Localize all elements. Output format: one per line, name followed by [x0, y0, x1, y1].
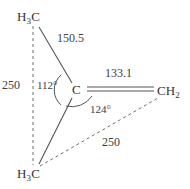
atom-label-methyl-top: H3C	[17, 9, 40, 26]
distance-label-methyl-methylene: 250	[102, 135, 120, 150]
atom-label-methyl-top-suffix: C	[31, 9, 40, 24]
atom-label-methyl-bottom-suffix: C	[31, 166, 40, 181]
atom-label-methylene-right: CH2	[157, 83, 180, 100]
bond-angle-label-124: 124°	[90, 103, 111, 115]
distance-label-methyl-methyl: 250	[2, 78, 20, 93]
bond-length-label-133: 133.1	[105, 66, 132, 81]
molecular-structure-diagram: H3C H3C CH2 C 150.5 133.1 250 250 112° 1…	[0, 0, 190, 189]
bond-line-methyl-bottom	[39, 98, 72, 164]
atom-label-central-carbon: C	[72, 82, 81, 98]
atom-label-methyl-top-prefix: H	[17, 9, 26, 24]
atom-label-methyl-bottom: H3C	[17, 166, 40, 183]
atom-label-methylene-subscript: 2	[175, 90, 180, 100]
bond-angle-label-112: 112°	[37, 79, 58, 91]
atom-label-methyl-bottom-prefix: H	[17, 166, 26, 181]
bond-length-label-150: 150.5	[57, 31, 84, 46]
atom-label-methylene-prefix: CH	[157, 83, 175, 98]
